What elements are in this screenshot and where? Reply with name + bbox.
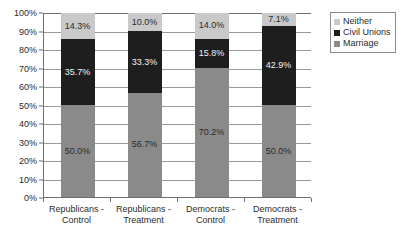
y-axis-tick-label: 100% [14, 9, 37, 18]
bar-segment: 50.0% [262, 105, 296, 197]
bar-group: 14.3%35.7%50.0% [61, 13, 95, 197]
bar-segment: 50.0% [61, 105, 95, 197]
x-axis-category-label: Democrats -Treatment [253, 204, 302, 226]
x-tick-mark [177, 198, 178, 202]
x-axis-category-label-line: Treatment [253, 215, 302, 226]
y-axis-tick-label: 0% [24, 194, 37, 203]
bar-stack: 14.3%35.7%50.0% [61, 13, 95, 197]
bar-segment-value-label: 50.0% [266, 147, 292, 156]
y-axis-tick-label: 90% [19, 27, 37, 36]
x-axis-category-label-line: Democrats - [186, 204, 235, 215]
legend-item[interactable]: Neither [334, 16, 391, 27]
bar-segment-value-label: 15.8% [199, 49, 225, 58]
bar-segment-value-label: 14.3% [65, 22, 91, 31]
bar-segment-value-label: 70.2% [199, 128, 225, 137]
bar-segment-value-label: 56.7% [132, 140, 158, 149]
bar-segment-value-label: 10.0% [132, 18, 158, 27]
x-axis-category-label: Republicans -Treatment [116, 204, 171, 226]
x-tick-mark [43, 198, 44, 202]
x-axis: Republicans -ControlRepublicans -Treatme… [43, 198, 311, 238]
bar-segment: 15.8% [195, 39, 229, 68]
bar-segment-value-label: 42.9% [266, 61, 292, 70]
bar-stack: 7.1%42.9%50.0% [262, 13, 296, 197]
legend-swatch-icon [334, 30, 340, 36]
legend-item[interactable]: Civil Unions [334, 27, 391, 38]
bar-segment: 56.7% [128, 93, 162, 197]
chart-legend: NeitherCivil UnionsMarriage [330, 12, 396, 53]
bar-segment: 70.2% [195, 68, 229, 197]
bar-segment-value-label: 7.1% [268, 15, 289, 24]
y-axis-tick-label: 60% [19, 83, 37, 92]
legend-item-label: Marriage [343, 39, 379, 48]
legend-swatch-icon [334, 19, 340, 25]
bar-segment-value-label: 35.7% [65, 68, 91, 77]
bar-segment: 14.0% [195, 13, 229, 39]
x-axis-category-label: Democrats -Control [186, 204, 235, 226]
bar-group: 10.0%33.3%56.7% [128, 13, 162, 197]
y-axis: 0%10%20%30%40%50%60%70%80%90%100% [0, 13, 43, 198]
bar-segment-value-label: 33.3% [132, 58, 158, 67]
bar-stack: 14.0%15.8%70.2% [195, 13, 229, 197]
bars-layer: 14.3%35.7%50.0%10.0%33.3%56.7%14.0%15.8%… [44, 13, 311, 197]
x-axis-category-label-line: Control [186, 215, 235, 226]
x-axis-category-label: Republicans -Control [49, 204, 104, 226]
x-tick-mark [311, 198, 312, 202]
bar-segment: 33.3% [128, 31, 162, 92]
y-axis-tick-label: 40% [19, 120, 37, 129]
x-axis-category-label-line: Treatment [116, 215, 171, 226]
plot-area: 14.3%35.7%50.0%10.0%33.3%56.7%14.0%15.8%… [43, 13, 311, 198]
legend-item-label: Civil Unions [343, 28, 391, 37]
y-axis-tick-label: 20% [19, 157, 37, 166]
y-axis-tick-label: 70% [19, 64, 37, 73]
y-axis-tick-label: 30% [19, 138, 37, 147]
stacked-bar-chart: 0%10%20%30%40%50%60%70%80%90%100% 14.3%3… [0, 0, 411, 240]
x-tick-mark [110, 198, 111, 202]
bar-segment: 7.1% [262, 13, 296, 26]
bar-stack: 10.0%33.3%56.7% [128, 13, 162, 197]
bar-group: 14.0%15.8%70.2% [195, 13, 229, 197]
y-axis-tick-label: 10% [19, 175, 37, 184]
legend-item[interactable]: Marriage [334, 38, 391, 49]
bar-segment: 35.7% [61, 39, 95, 105]
y-axis-tick-label: 50% [19, 101, 37, 110]
bar-segment: 42.9% [262, 26, 296, 105]
bar-segment: 10.0% [128, 13, 162, 31]
bar-segment: 14.3% [61, 13, 95, 39]
bar-group: 7.1%42.9%50.0% [262, 13, 296, 197]
legend-item-label: Neither [343, 17, 372, 26]
bar-segment-value-label: 14.0% [199, 21, 225, 30]
x-axis-category-label-line: Control [49, 215, 104, 226]
x-axis-category-label-line: Republicans - [49, 204, 104, 215]
x-axis-category-label-line: Republicans - [116, 204, 171, 215]
x-axis-category-label-line: Democrats - [253, 204, 302, 215]
y-axis-tick-label: 80% [19, 46, 37, 55]
x-tick-mark [244, 198, 245, 202]
legend-swatch-icon [334, 41, 340, 47]
bar-segment-value-label: 50.0% [65, 147, 91, 156]
